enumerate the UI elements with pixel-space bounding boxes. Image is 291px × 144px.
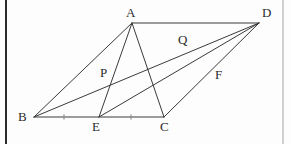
vertex-label-b: B: [18, 110, 27, 123]
segment-a-b: [34, 23, 132, 117]
geometry-figure: ADBCEPQF: [0, 0, 291, 144]
geometry-canvas: [0, 0, 291, 144]
vertex-label-f: F: [215, 68, 222, 81]
segments-group: [34, 23, 259, 117]
vertex-label-e: E: [92, 120, 100, 133]
page-border-rules: [6, 0, 283, 144]
vertex-label-a: A: [126, 6, 135, 19]
segment-b-d-diagonal: [34, 23, 259, 117]
vertex-label-c: C: [160, 120, 169, 133]
vertex-label-q: Q: [178, 33, 187, 46]
segment-a-c-diagonal: [132, 23, 164, 117]
vertex-label-p: P: [100, 66, 107, 79]
vertex-label-d: D: [262, 6, 271, 19]
